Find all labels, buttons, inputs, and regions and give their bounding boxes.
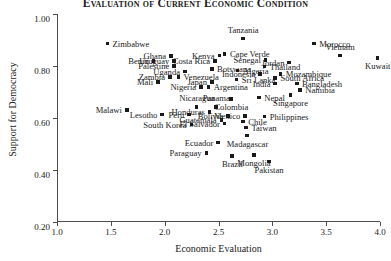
data-point-marker [243, 114, 247, 118]
data-point-marker [273, 82, 277, 86]
y-axis-label: Support for Democracy [7, 6, 18, 214]
x-axis-tick-mark [165, 222, 166, 226]
data-point-marker [223, 122, 227, 126]
x-axis-tick-label: 4.0 [360, 222, 391, 237]
data-point-marker [205, 151, 209, 155]
data-point-marker [257, 96, 261, 100]
x-axis-tick-mark [57, 222, 58, 226]
data-point-label: Argentina [214, 83, 248, 92]
y-axis-tick-label: 1.00 [34, 15, 57, 24]
plot-area: ZimbabweTanzaniaMoroccoVietnamKuwaitKeny… [57, 14, 380, 222]
data-point-label: Madagascar [227, 140, 269, 149]
data-point-marker [241, 37, 245, 41]
data-point-marker [199, 85, 203, 89]
data-point-label: Pakistan [254, 166, 283, 175]
data-point-marker [338, 54, 342, 58]
data-point-marker [245, 134, 249, 138]
data-point-marker [125, 108, 129, 112]
data-point-marker [106, 42, 110, 46]
data-point-marker [216, 141, 220, 145]
y-axis-tick-label: 0.80 [34, 67, 57, 76]
data-point-marker [177, 75, 181, 79]
data-point-marker [235, 78, 239, 82]
data-point-label: Mali [137, 78, 153, 87]
x-axis-tick-mark [272, 222, 273, 226]
x-axis-tick-mark [380, 222, 381, 226]
data-point-marker [298, 88, 302, 92]
data-point-marker [214, 105, 218, 109]
data-point-marker [156, 80, 160, 84]
data-point-marker [168, 75, 172, 79]
data-point-label: Tanzania [228, 26, 259, 35]
scatter-chart-figure: Evaluation of Current Economic Condition… [0, 0, 391, 261]
data-point-marker [241, 120, 245, 124]
data-point-label: Lesotho [130, 111, 158, 120]
data-point-label: Namibia [305, 86, 335, 95]
data-point-marker [312, 42, 316, 46]
data-point-label: Nigeria [170, 83, 196, 92]
data-point-marker [160, 113, 164, 117]
data-point-marker [230, 154, 234, 158]
data-point-marker [210, 67, 214, 71]
data-point-marker [207, 85, 211, 89]
data-point-label: Kuwait [365, 62, 390, 71]
data-point-label: Paraguay [170, 149, 202, 158]
data-point-label: El Salvador [180, 120, 220, 129]
data-point-marker [213, 59, 217, 63]
data-point-marker [223, 52, 227, 56]
data-point-label: Vietnam [326, 43, 355, 52]
page-title: Evaluation of Current Economic Condition [0, 0, 391, 9]
data-point-marker [376, 56, 380, 60]
data-point-marker [244, 126, 248, 130]
y-axis-tick-label: 0.40 [34, 171, 57, 180]
data-point-marker [289, 93, 293, 97]
data-point-label: Taiwan [251, 124, 276, 133]
x-axis-label: Economic Evaluation [57, 243, 380, 254]
data-point-label: India [253, 80, 271, 89]
x-axis-tick-mark [219, 222, 220, 226]
data-point-marker [218, 54, 222, 58]
data-point-label: Philippines [270, 113, 309, 122]
data-point-marker [295, 82, 299, 86]
x-axis-tick-mark [326, 222, 327, 226]
data-point-label: Costa Rica [173, 57, 210, 66]
data-point-label: Malawi [96, 106, 122, 115]
data-point-label: Singapore [273, 99, 308, 108]
data-point-marker [252, 153, 256, 157]
data-point-label: Panama [203, 94, 230, 103]
x-axis-tick-mark [111, 222, 112, 226]
y-axis-tick-label: 0.60 [34, 119, 57, 128]
data-point-marker [267, 160, 271, 164]
data-point-label: Zimbabwe [113, 40, 150, 49]
data-point-label: Ecuador [185, 139, 214, 148]
